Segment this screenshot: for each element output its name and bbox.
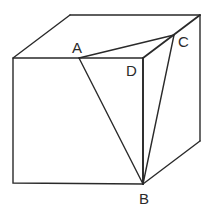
top-right-edge: [143, 15, 200, 58]
right-bottom-edge: [143, 141, 200, 184]
cube-diagram: A C D B: [0, 0, 224, 216]
label-A: A: [72, 39, 82, 56]
label-D: D: [126, 62, 137, 79]
top-left-edge: [13, 15, 70, 58]
label-C: C: [178, 33, 189, 50]
segment-AC: [79, 35, 174, 58]
front-face: [13, 58, 143, 184]
label-B: B: [139, 190, 149, 207]
segment-CB: [143, 35, 174, 184]
